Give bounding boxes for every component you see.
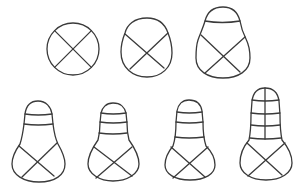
stages-figure (0, 0, 299, 196)
stage-5-bulb-figure (88, 103, 139, 181)
stage-4-bulb-figure (12, 101, 65, 182)
stage-7-bulb-grid-figure (240, 88, 292, 180)
stage-2-pear-figure (121, 18, 172, 77)
stage-1-circle-figure (47, 23, 99, 75)
stage-3-pear-cap-figure (196, 7, 250, 78)
diagram-canvas (0, 0, 299, 196)
stage-6-bulb-figure (165, 100, 215, 180)
